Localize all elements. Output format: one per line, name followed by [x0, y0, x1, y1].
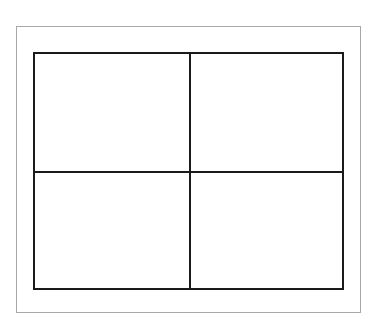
two-by-two-grid — [33, 52, 344, 290]
horizontal-divider — [35, 171, 342, 173]
